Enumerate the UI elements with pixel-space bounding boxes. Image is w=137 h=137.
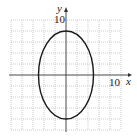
y-axis-arrow-icon (64, 7, 68, 12)
ellipse-graph: y 10 10 x (0, 0, 137, 137)
x-tick-label: 10 (109, 76, 121, 88)
x-axis-label: x (125, 75, 131, 87)
y-tick-label: 10 (54, 13, 66, 25)
